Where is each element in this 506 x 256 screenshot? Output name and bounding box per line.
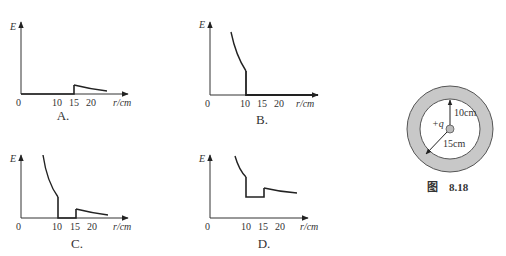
x-axis-label: r/cm: [113, 97, 131, 108]
figure-caption-prefix: 图: [427, 181, 438, 193]
x-axis-label: r/cm: [296, 98, 314, 109]
chart-caption: C.: [71, 236, 83, 251]
tick-10: 10: [52, 97, 62, 108]
x-axis-label: r/cm: [113, 221, 131, 232]
field-curve: [58, 197, 76, 218]
tick-15: 15: [70, 221, 80, 232]
figure-caption-number: 8.18: [449, 181, 469, 193]
y-axis-label: E: [9, 21, 16, 32]
field-curve-decay: [74, 85, 107, 91]
chart-caption: D.: [258, 236, 271, 251]
chart-c: E 0 10 15 20 r/cm C.: [9, 153, 131, 251]
field-curve-decay: [43, 155, 58, 197]
tick-0: 0: [16, 221, 21, 232]
tick-10: 10: [241, 221, 251, 232]
chart-caption: A.: [57, 108, 70, 123]
field-curve-decay-outer: [264, 188, 297, 193]
tick-15: 15: [69, 97, 79, 108]
chart-d: E 0 10 15 20 r/cm D.: [198, 153, 318, 251]
tick-20: 20: [274, 98, 284, 109]
y-axis-label: E: [198, 153, 205, 164]
x-axis-label: r/cm: [300, 221, 318, 232]
tick-20: 20: [87, 221, 97, 232]
shell-figure: +q 10cm 15cm 图 8.18: [407, 86, 493, 193]
point-charge: [446, 125, 454, 133]
field-curve: [246, 177, 264, 197]
field-curve-decay: [231, 32, 246, 71]
tick-10: 10: [52, 221, 62, 232]
y-axis-label: E: [198, 19, 205, 30]
chart-a: E 0 10 15 20 r/cm A.: [9, 21, 131, 123]
diagram-canvas: E 0 10 15 20 r/cm A. E 0 10 15 20 r/cm B…: [0, 0, 506, 256]
tick-0: 0: [205, 98, 210, 109]
field-curve: [246, 71, 318, 95]
field-curve-decay-outer: [76, 209, 108, 215]
chart-caption: B.: [256, 112, 268, 127]
tick-20: 20: [275, 221, 285, 232]
field-curve-decay: [235, 156, 246, 177]
tick-15: 15: [257, 98, 267, 109]
inner-radius-label: 10cm: [454, 107, 476, 118]
outer-radius-label: 15cm: [443, 138, 465, 149]
tick-0: 0: [205, 221, 210, 232]
charge-label: +q: [432, 118, 444, 129]
tick-20: 20: [86, 97, 96, 108]
field-curve: [21, 85, 74, 94]
chart-b: E 0 10 15 20 r/cm B.: [198, 19, 318, 127]
tick-15: 15: [258, 221, 268, 232]
tick-0: 0: [16, 97, 21, 108]
y-axis-label: E: [9, 153, 16, 164]
tick-10: 10: [240, 98, 250, 109]
